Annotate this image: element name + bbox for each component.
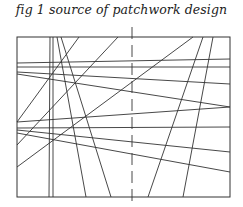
design-line: [17, 59, 230, 63]
design-line: [148, 37, 203, 197]
patchwork-line-diagram: [0, 0, 243, 207]
design-line: [17, 37, 193, 167]
design-line: [17, 74, 230, 107]
design-line: [49, 37, 50, 197]
design-line: [183, 37, 213, 197]
design-line: [17, 127, 230, 128]
